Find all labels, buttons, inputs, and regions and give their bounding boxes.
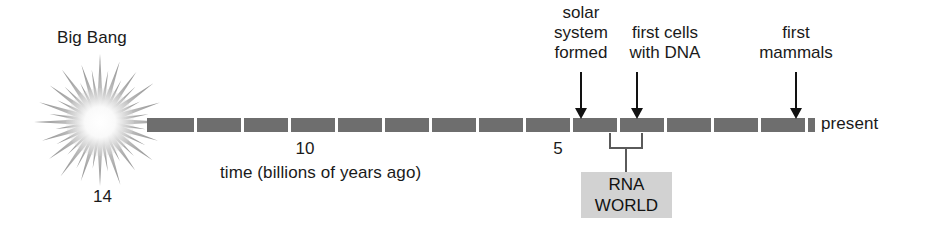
timeline-tick [570,118,573,132]
timeline-tick [711,118,714,132]
event-arrow-head-first-cells-with-dna [631,108,643,119]
timeline-tick [805,118,808,132]
event-arrow-shaft-first-cells-with-dna [636,72,638,110]
axis-tick-label-5: 5 [538,139,578,159]
timeline-bar [147,118,815,132]
axis-tick-label-10: 10 [285,139,325,159]
event-label-line: solar [520,3,642,23]
timeline-tick [288,118,291,132]
event-label-line: with DNA [596,43,734,63]
timeline-tick [617,118,620,132]
timeline-tick [523,118,526,132]
timeline-tick [382,118,385,132]
rna-world-box: RNA WORLD [581,172,672,218]
big-bang-age-label: 14 [93,187,112,207]
event-arrow-head-first-mammals [790,108,802,119]
timeline-tick [194,118,197,132]
rna-world-connector-stem [625,149,627,174]
event-label-line: mammals [742,43,850,63]
timeline-tick [241,118,244,132]
event-arrow-shaft-solar-system-formed [580,72,582,110]
big-bang-label: Big Bang [57,28,127,48]
timeline-tick [335,118,338,132]
timeline-tick [429,118,432,132]
event-label-line: first cells [596,23,734,43]
timeline-tick [758,118,761,132]
rna-world-bracket [609,133,643,149]
timeline-tick [664,118,667,132]
axis-label: time (billions of years ago) [220,163,421,183]
timeline-tick [476,118,479,132]
event-label-first-cells-with-dna: first cells with DNA [596,23,734,63]
rna-world-label-line: WORLD [595,195,658,216]
event-arrow-shaft-first-mammals [795,72,797,110]
event-label-first-mammals: first mammals [742,23,850,63]
rna-world-label-line: RNA [609,174,645,195]
event-label-line: first [742,23,850,43]
timeline-figure: Big Bang 14 10 5 time (billions of years… [0,0,929,228]
present-label: present [821,114,878,134]
event-arrow-head-solar-system-formed [575,108,587,119]
